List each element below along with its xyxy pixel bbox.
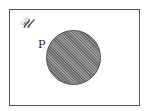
set-p-label: P [38,39,45,50]
set-p-circle-shaded [46,30,101,85]
universal-set-label: 𝒰 [19,16,32,30]
